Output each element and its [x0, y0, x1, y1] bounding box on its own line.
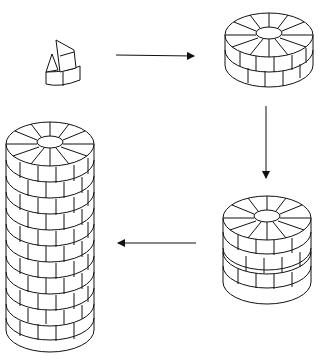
tower-stage [6, 122, 94, 352]
assembly-diagram [0, 0, 319, 361]
arrow-right [116, 55, 194, 56]
single-ring-stage [225, 13, 313, 87]
blocks-stage [46, 40, 80, 86]
double-ring-stage [223, 196, 311, 304]
